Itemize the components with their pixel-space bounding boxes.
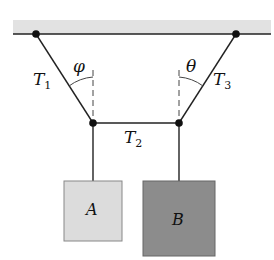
junction-left (89, 119, 97, 127)
label-phi: φ (73, 56, 85, 76)
junction-right (175, 119, 183, 127)
label-block-a: A (84, 200, 98, 219)
label-t3: T3 (213, 69, 231, 92)
label-t2: T2 (124, 127, 142, 150)
label-theta: θ (186, 56, 196, 76)
angle-arc-phi (69, 77, 93, 86)
pulley-tension-diagram: T1 T2 T3 φ θ A B (0, 0, 274, 260)
ceiling (13, 20, 271, 34)
label-t1: T1 (33, 69, 51, 92)
angle-arc-theta (179, 77, 203, 86)
label-block-b: B (171, 210, 184, 229)
anchor-left (32, 30, 40, 38)
anchor-right (232, 30, 240, 38)
